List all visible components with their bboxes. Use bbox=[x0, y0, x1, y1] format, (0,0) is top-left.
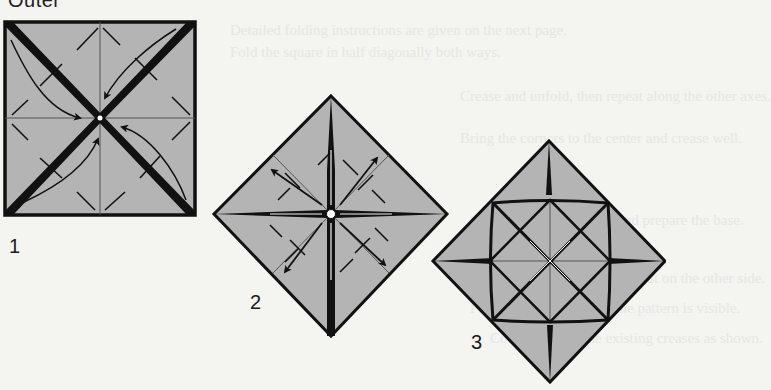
step-number-1: 1 bbox=[9, 235, 20, 257]
step-number-3: 3 bbox=[471, 331, 482, 353]
step-2-diagram bbox=[214, 96, 447, 336]
step-number-2: 2 bbox=[250, 291, 261, 313]
step-1-diagram bbox=[5, 22, 195, 215]
step-3-diagram bbox=[433, 141, 665, 382]
